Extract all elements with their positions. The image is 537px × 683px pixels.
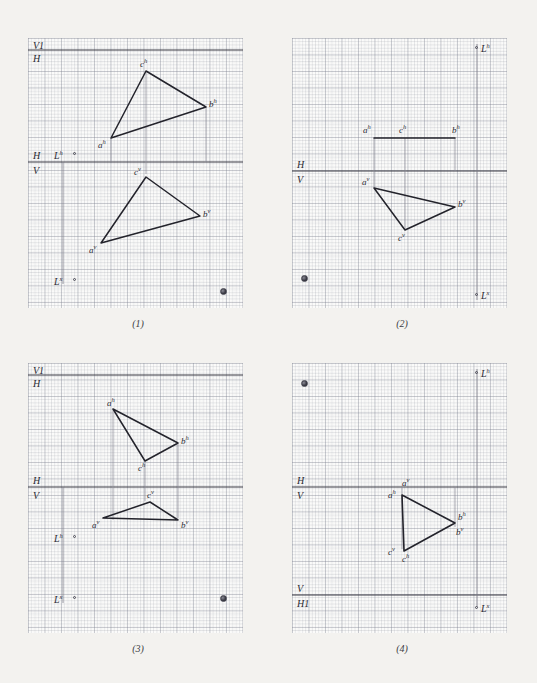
origin-dot-marker [220,288,227,295]
lx-marker [475,293,478,296]
panel-4-drawing [292,363,507,633]
vertex-label-bh: bh [181,435,189,446]
vertex-label-bh: bh [209,98,217,109]
triangle-top-view [111,71,206,138]
lh-label: Lh [481,43,490,54]
vertex-label-ah: ah [98,139,106,150]
v-label-mid: V [297,491,303,501]
lx-label: Lx [54,594,62,605]
h-label-mid: H [297,476,304,486]
vertex-label-cv: cv [398,232,405,243]
vertex-label-bv: bv [181,519,188,530]
vertex-label-av: av [92,519,99,530]
vertex-label-ch: ch [399,124,406,135]
lh-marker [475,46,478,49]
panel-4: H V V H1 Lh Lx ah av bh bv cv ch [292,363,507,633]
lh-marker [73,535,76,538]
lx-marker [73,278,76,281]
v-label-mid: V [297,175,303,185]
lh-marker [73,152,76,155]
triangle-front-view [101,177,200,243]
panel-2: H V Lh Lx ah ch bh av bv cv [292,38,507,308]
vertex-label-bv: bv [456,526,463,537]
vertex-label-cv: cv [388,546,395,557]
lx-marker [475,606,478,609]
vertex-label-bv: bv [458,198,465,209]
lh-label: Lh [54,150,63,161]
vertex-label-cv: cv [134,166,141,177]
lx-label: Lx [54,276,62,287]
h-label-top: H [33,54,40,64]
vertex-label-ah: ah [363,124,371,135]
lh-marker [475,371,478,374]
lh-label: Lh [54,533,63,544]
h-label-mid: H [33,476,40,486]
triangle-front-view [374,188,455,230]
h-label-mid: H [33,151,40,161]
lh-label: Lh [481,368,490,379]
triangle-front-view [103,502,178,520]
vertex-label-ah: ah [388,489,396,500]
lx-label: Lx [481,603,489,614]
v1-label: V1 [33,366,44,376]
lx-label: Lx [481,290,489,301]
h-label-mid: H [297,160,304,170]
vertex-label-bh: bh [452,124,460,135]
vertex-label-av: av [362,176,369,187]
origin-dot-marker [301,380,308,387]
vertex-label-ch: ch [402,553,409,564]
panel-2-caption: (2) [372,318,432,329]
panel-1: V1 H H V Lh Lx ah bh ch av bv cv [28,38,243,308]
vertex-label-ch: ch [140,58,147,69]
vertex-label-cv: cv [147,489,154,500]
h-label-top: H [33,379,40,389]
vertex-label-ah: ah [107,397,115,408]
vertex-label-ch: ch [138,462,145,473]
worksheet-sheet: V1 H H V Lh Lx ah bh ch av bv cv (1) H V… [0,0,537,683]
vertex-label-bv: bv [203,208,210,219]
panel-4-caption: (4) [372,643,432,654]
panel-1-caption: (1) [108,318,168,329]
v-label-mid: V [33,166,39,176]
vertex-label-bh: bh [458,511,466,522]
panel-3-caption: (3) [108,643,168,654]
v1-label: V1 [33,41,44,51]
vertex-label-av: av [89,244,96,255]
h1-label: H1 [297,599,309,609]
lx-marker [73,596,76,599]
origin-dot-marker [220,595,227,602]
triangle-top-view [113,409,178,461]
v-label-bottom: V [297,584,303,594]
triangle-combined-view [402,495,455,551]
vertex-label-av: av [402,477,409,488]
origin-dot-marker [301,275,308,282]
panel-3: V1 H H V Lh Lx ah bh ch av cv bv [28,363,243,633]
panel-2-drawing [292,38,507,308]
v-label-mid: V [33,491,39,501]
